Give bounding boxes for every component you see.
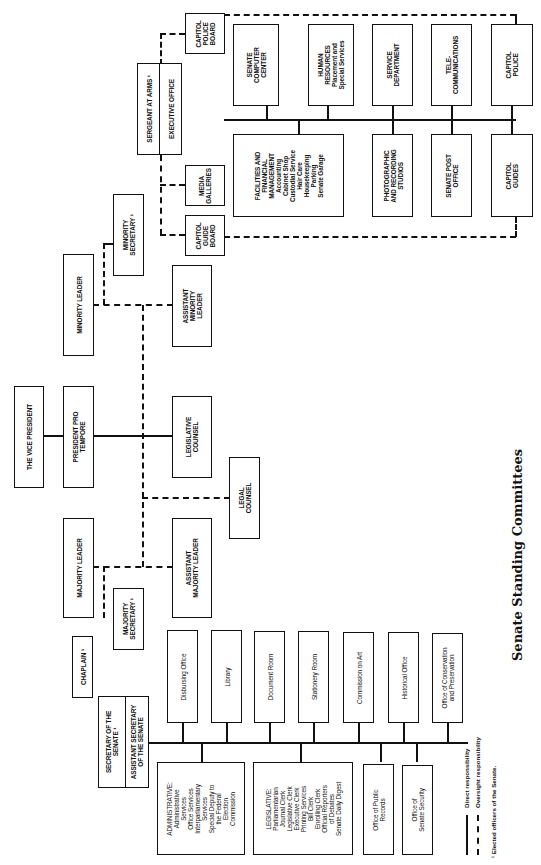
historical-office-label: Historical Office (400, 656, 407, 699)
direct-stub (511, 105, 513, 120)
assistant-secretary-label: ASSISTANT SECRETARY OF THE SENATE (130, 705, 144, 779)
human-resources-label: HUMAN RESOURCES Placement and Special Se… (317, 41, 345, 90)
direct-stub (327, 105, 329, 120)
direct-stub (269, 722, 271, 743)
executive-office-cell: EXECUTIVE OFFICE (160, 64, 181, 154)
vice-president-label: THE VICE PRESIDENT (26, 404, 33, 470)
majority-leader-label: MAJORITY LEADER (75, 538, 82, 597)
oversight-line-minority-leader (93, 304, 173, 306)
senate-computer-center-label: SENATE COMPUTER CENTER (246, 47, 267, 83)
secretary-of-the-senate-box: SECRETARY OF THE SENATE ¹ ASSISTANT SECR… (98, 696, 149, 788)
majority-secretary-label: MAJORITY SECRETARY ¹ (122, 598, 136, 639)
direct-stub (451, 105, 453, 120)
legend-oversight-line-icon (477, 815, 479, 855)
assistant-majority-leader-label: ASSISTANT MAJORITY LEADER (185, 538, 199, 597)
assistant-secretary-cell: ASSISTANT SECRETARY OF THE SENATE (126, 697, 148, 787)
legend-footnote: ¹ Elected officers of the Senate. (490, 766, 497, 858)
oversight-line-media-galleries (160, 184, 185, 186)
oversight-line-minority-secretary-h (103, 243, 113, 245)
direct-stub (511, 119, 513, 135)
oversight-line-guide-board-to-guides (224, 236, 516, 238)
human-resources-box: HUMAN RESOURCES Placement and Special Se… (308, 24, 354, 106)
legislative-box: LEGISLATIVE: Parliamentarian Journal Cle… (253, 762, 353, 855)
direct-stub (403, 722, 405, 743)
senate-post-office-box: SENATE POST OFFICE (431, 134, 472, 217)
majority-secretary-box: MAJORITY SECRETARY ¹ (113, 588, 144, 650)
administrative-box: ADMINISTRATIVE: Administrative Services … (157, 762, 245, 855)
telecommunications-label: TELE- COMMUNICATIONS (445, 36, 459, 94)
legend-oversight-label: Oversight responsibility (474, 737, 481, 808)
assistant-majority-leader-box: ASSISTANT MAJORITY LEADER (172, 518, 212, 618)
assistant-minority-leader-label: ASSISTANT MINORITY LEADER (182, 289, 203, 324)
commission-on-art-box: Commission on Art (343, 632, 374, 723)
secretary-of-the-senate-label: SECRETARY OF THE SENATE ¹ (105, 711, 119, 773)
legislative-counsel-label: LEGISLATIVE COUNSEL (185, 417, 199, 457)
direct-stub (416, 742, 418, 762)
senate-post-office-label: SENATE POST OFFICE (445, 154, 459, 198)
office-of-senate-security-box: Office of Senate Security (402, 765, 433, 855)
oversight-line-majority-secretary (103, 566, 105, 618)
direct-stub (313, 722, 315, 743)
photographic-recording-studios-label: PHOTOGRAPHIC AND RECORDING STUDIOS (382, 149, 403, 202)
capitol-guides-box: CAPITOL GUIDES (491, 134, 533, 217)
minority-leader-label: MINORITY LEADER (75, 276, 82, 334)
sergeant-at-arms-box: SERGEANT AT ARMS ¹ EXECUTIVE OFFICE (137, 63, 182, 155)
capitol-police-box: CAPITOL POLICE (491, 24, 533, 106)
oversight-line-capitol-guide-board (160, 234, 185, 236)
office-of-senate-security-label: Office of Senate Security (411, 788, 425, 832)
office-of-public-records-label: Office of Public Records (372, 789, 386, 830)
library-label: Library (223, 667, 230, 686)
chaplain-label: CHAPLAIN ¹ (79, 649, 86, 685)
photographic-recording-studios-box: PHOTOGRAPHIC AND RECORDING STUDIOS (372, 134, 413, 217)
service-department-box: SERVICE DEPARTMENT (372, 24, 413, 106)
direct-stub (358, 722, 360, 743)
secretary-cell: SECRETARY OF THE SENATE ¹ (99, 697, 126, 787)
disbursing-office-label: Disbursing Office (179, 653, 186, 700)
capitol-guide-board-box: CAPITOL GUIDE BOARD (185, 215, 225, 256)
assistant-minority-leader-box: ASSISTANT MINORITY LEADER (172, 265, 212, 347)
direct-stub (266, 105, 268, 120)
administrative-label: ADMINISTRATIVE: Administrative Services … (166, 782, 236, 835)
oversight-line-capitol-police-board (160, 33, 185, 35)
capitol-guide-board-label: CAPITOL GUIDE BOARD (195, 222, 216, 249)
direct-stub (451, 119, 453, 135)
stationery-room-label: Stationery Room (310, 654, 317, 700)
legal-counsel-label: LEGAL COUNSEL (238, 483, 252, 514)
page-caption: Senate Standing Committees (510, 449, 525, 661)
oversight-line-sergeant-boards (160, 33, 162, 65)
legislative-label: LEGISLATIVE: Parliamentarian Journal Cle… (265, 781, 342, 835)
oversight-line-majority-leader (93, 566, 173, 568)
disbursing-office-box: Disbursing Office (167, 630, 198, 723)
historical-office-box: Historical Office (388, 632, 419, 723)
chaplain-box: CHAPLAIN ¹ (72, 636, 93, 698)
office-of-conservation-box: Office of Conservation and Preservation (432, 633, 463, 723)
oversight-line-guides-right (515, 217, 517, 237)
president-pro-tempore-label: PRESIDENT PRO TEMPORE (72, 412, 86, 463)
minority-leader-box: MINORITY LEADER (63, 254, 94, 356)
oversight-spine-leadership (142, 305, 144, 567)
minority-secretary-label: MINORITY SECRETARY ¹ (122, 214, 136, 255)
capitol-police-board-box: CAPITOL POLICE BOARD (185, 13, 225, 54)
sergeant-at-arms-cell: SERGEANT AT ARMS ¹ (138, 64, 160, 154)
minority-secretary-box: MINORITY SECRETARY ¹ (113, 194, 144, 276)
president-pro-tempore-box: PRESIDENT PRO TEMPORE (63, 386, 94, 488)
direct-stub (392, 119, 394, 135)
oversight-line-legal-counsel (142, 497, 230, 499)
direct-stub (300, 742, 302, 762)
legend-direct-line-icon (466, 815, 468, 855)
direct-stub (380, 742, 382, 762)
library-box: Library (211, 630, 242, 723)
vice-president-box: THE VICE PRESIDENT (14, 386, 44, 488)
direct-spine-secretary (148, 742, 468, 744)
direct-stub (226, 722, 228, 743)
office-of-conservation-label: Office of Conservation and Preservation (441, 648, 455, 709)
sergeant-at-arms-label: SERGEANT AT ARMS ¹ (145, 75, 152, 143)
commission-on-art-label: Commission on Art (355, 652, 362, 704)
document-room-label: Document Room (266, 654, 273, 701)
document-room-box: Document Room (254, 631, 285, 723)
facilities-financial-management-label: FACILITIES AND FINANCIAL MANAGEMENT Acco… (254, 150, 324, 202)
oversight-line-sergeant-lower (160, 155, 162, 235)
media-galleries-label: MEDIA GALLERIES (198, 168, 212, 204)
majority-leader-box: MAJORITY LEADER (63, 518, 94, 618)
service-department-label: SERVICE DEPARTMENT (386, 44, 400, 87)
